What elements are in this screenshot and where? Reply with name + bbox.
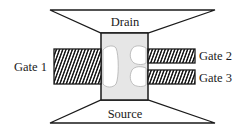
gate-1-electrode [54, 49, 101, 84]
quantum-dot-device-diagram: Drain Source Gate 1 Gate 2 Gate 3 [0, 0, 248, 134]
gate-2-electrode [148, 49, 195, 63]
gate-3-electrode [148, 70, 195, 84]
gate-3-label: Gate 3 [199, 71, 232, 85]
left-quantum-dot [103, 46, 118, 87]
source-label: Source [108, 107, 143, 121]
upper-right-quantum-dot [130, 46, 146, 65]
drain-label: Drain [111, 15, 140, 29]
gate-1-label: Gate 1 [14, 60, 47, 74]
gate-2-label: Gate 2 [199, 49, 232, 63]
lower-right-quantum-dot [130, 67, 146, 87]
